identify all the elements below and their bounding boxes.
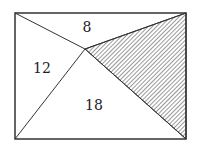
label-left-region: 12 bbox=[33, 60, 51, 76]
label-bottom-region: 18 bbox=[85, 97, 103, 113]
label-top-region: 8 bbox=[83, 19, 92, 35]
shaded-triangle bbox=[85, 13, 186, 139]
geometry-diagram: 8 12 18 bbox=[0, 0, 198, 149]
line-to-top-left bbox=[15, 13, 85, 49]
